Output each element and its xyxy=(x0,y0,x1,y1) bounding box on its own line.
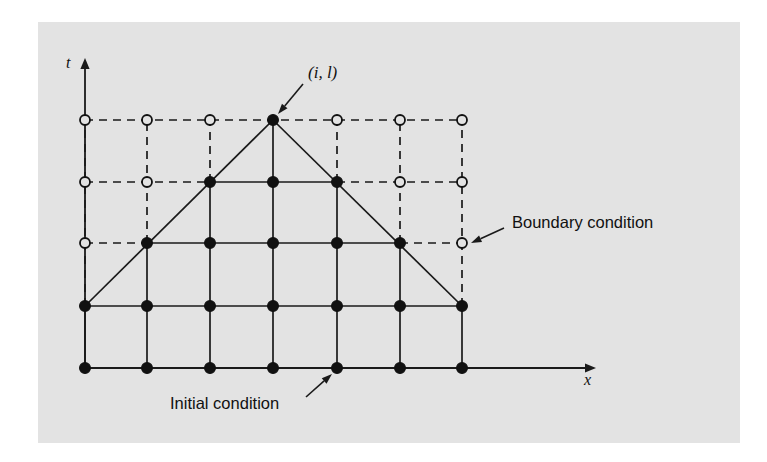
grid-node-open xyxy=(80,238,90,248)
grid-node-filled xyxy=(142,301,153,312)
grid-node-filled xyxy=(268,363,279,374)
figure-panel-background xyxy=(38,22,740,443)
grid-node-filled xyxy=(395,363,406,374)
grid-node-filled xyxy=(205,238,216,249)
boundary-condition-label: Boundary condition xyxy=(512,213,653,231)
grid-node-filled xyxy=(332,177,343,188)
grid-node-open xyxy=(205,115,215,125)
grid-node-filled xyxy=(268,301,279,312)
grid-node-open xyxy=(332,115,342,125)
grid-node-open xyxy=(395,177,405,187)
grid-node-filled xyxy=(142,363,153,374)
grid-node-filled xyxy=(205,363,216,374)
initial-condition-label: Initial condition xyxy=(170,394,279,412)
grid-node-filled xyxy=(80,363,91,374)
grid-node-filled xyxy=(332,363,343,374)
x-axis-label: x xyxy=(583,371,591,388)
grid-node-open xyxy=(142,115,152,125)
grid-node-open xyxy=(457,238,467,248)
grid-node-filled xyxy=(80,301,91,312)
figure-container: t x (i, l) Boundary condition Initial co… xyxy=(0,0,767,462)
grid-node-filled xyxy=(457,301,468,312)
grid-node-filled xyxy=(142,238,153,249)
grid-node-open xyxy=(80,177,90,187)
grid-node-filled xyxy=(332,238,343,249)
t-axis-label: t xyxy=(66,54,71,71)
grid-node-filled xyxy=(395,301,406,312)
grid-node-open xyxy=(80,115,90,125)
grid-node-filled xyxy=(268,177,279,188)
grid-node-filled xyxy=(332,301,343,312)
grid-node-open xyxy=(457,115,467,125)
finite-difference-grid-figure: t x (i, l) Boundary condition Initial co… xyxy=(0,0,767,462)
apex-node-label: (i, l) xyxy=(308,63,338,82)
grid-node-filled xyxy=(395,238,406,249)
grid-node-filled xyxy=(205,177,216,188)
grid-node-open xyxy=(457,177,467,187)
grid-node-filled xyxy=(205,301,216,312)
grid-node-filled xyxy=(268,238,279,249)
grid-node-filled xyxy=(457,363,468,374)
grid-node-open xyxy=(395,115,405,125)
grid-node-filled xyxy=(268,115,279,126)
grid-node-open xyxy=(142,177,152,187)
